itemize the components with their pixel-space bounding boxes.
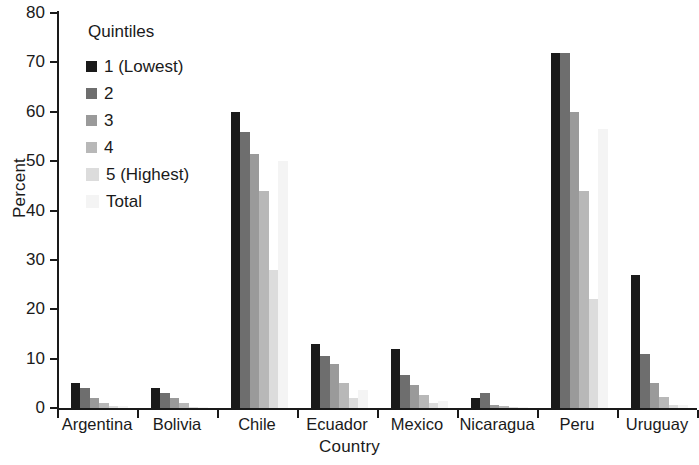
bar-group — [551, 13, 608, 408]
y-tick-label: 60 — [0, 103, 45, 120]
legend-swatch-icon — [86, 195, 99, 208]
legend-swatch-icon — [86, 115, 97, 126]
bar[interactable] — [429, 403, 439, 408]
legend-item-label: 1 (Lowest) — [104, 57, 183, 77]
bar[interactable] — [551, 53, 561, 409]
bar[interactable] — [400, 375, 410, 408]
y-tick-mark — [50, 160, 57, 162]
legend-item[interactable]: Total — [86, 188, 296, 215]
y-tick-mark — [50, 210, 57, 212]
bar-group — [391, 13, 448, 408]
bar[interactable] — [518, 407, 528, 408]
y-tick-label: 10 — [0, 350, 45, 367]
bar[interactable] — [480, 393, 490, 408]
y-tick-label: 0 — [0, 399, 45, 416]
bar[interactable] — [259, 191, 269, 408]
y-tick-mark — [50, 308, 57, 310]
y-tick-label: 20 — [0, 300, 45, 317]
y-tick-mark — [50, 61, 57, 63]
bar[interactable] — [349, 398, 359, 408]
legend-item-label: 3 — [104, 111, 113, 131]
y-tick-label: 70 — [0, 53, 45, 70]
bar[interactable] — [509, 407, 519, 408]
bar-group — [631, 13, 688, 408]
bar-chart: Percent Country 01020304050607080 Argent… — [0, 0, 699, 465]
bar[interactable] — [659, 397, 669, 408]
legend: Quintiles 1 (Lowest)2345 (Highest)Total — [86, 22, 296, 215]
legend-item-label: Total — [106, 192, 142, 212]
legend-swatch-icon — [86, 142, 97, 153]
bar[interactable] — [198, 407, 208, 408]
x-tick-label: Bolivia — [137, 415, 217, 433]
bar-group — [471, 13, 528, 408]
x-tick-label: Nicaragua — [457, 415, 537, 433]
bar[interactable] — [438, 401, 448, 408]
y-axis-title: Percent — [10, 133, 30, 243]
legend-item[interactable]: 4 — [86, 134, 296, 161]
bar[interactable] — [151, 388, 161, 408]
bar[interactable] — [631, 275, 641, 408]
bar[interactable] — [269, 270, 279, 408]
y-tick-label: 80 — [0, 4, 45, 21]
legend-item[interactable]: 5 (Highest) — [86, 161, 296, 188]
bar[interactable] — [391, 349, 401, 408]
bar[interactable] — [640, 354, 650, 408]
x-tick-label: Mexico — [377, 415, 457, 433]
bar[interactable] — [160, 393, 170, 408]
x-tick-label: Uruguay — [617, 415, 697, 433]
bar[interactable] — [99, 403, 109, 408]
y-tick-mark — [50, 111, 57, 113]
x-tick-label: Argentina — [57, 415, 137, 433]
bar-group — [311, 13, 368, 408]
x-tick-label: Peru — [537, 415, 617, 433]
bar[interactable] — [650, 383, 660, 408]
legend-item-label: 2 — [104, 84, 113, 104]
legend-swatch-icon — [86, 61, 97, 72]
x-tick-label: Ecuador — [297, 415, 377, 433]
y-tick-mark — [50, 12, 57, 14]
bar[interactable] — [471, 398, 481, 408]
legend-swatch-icon — [86, 168, 99, 181]
bar[interactable] — [71, 383, 81, 408]
legend-item-label: 5 (Highest) — [106, 165, 189, 185]
bar[interactable] — [669, 405, 679, 408]
y-tick-label: 30 — [0, 251, 45, 268]
bar[interactable] — [358, 390, 368, 408]
x-axis-title: Country — [0, 437, 699, 457]
bar[interactable] — [189, 407, 199, 408]
bar[interactable] — [80, 388, 90, 408]
bar[interactable] — [419, 395, 429, 408]
bar[interactable] — [570, 112, 580, 408]
x-tick-label: Chile — [217, 415, 297, 433]
bar[interactable] — [678, 405, 688, 408]
bar[interactable] — [598, 129, 608, 408]
bar[interactable] — [90, 398, 100, 408]
legend-items: 1 (Lowest)2345 (Highest)Total — [86, 53, 296, 215]
bar[interactable] — [490, 405, 500, 408]
bar[interactable] — [339, 383, 349, 408]
y-tick-mark — [50, 259, 57, 261]
bar[interactable] — [170, 398, 180, 408]
legend-item[interactable]: 1 (Lowest) — [86, 53, 296, 80]
bar[interactable] — [589, 299, 599, 408]
bar[interactable] — [579, 191, 589, 408]
bar[interactable] — [320, 356, 330, 408]
bar[interactable] — [118, 406, 128, 408]
legend-title: Quintiles — [88, 22, 296, 42]
bar[interactable] — [410, 385, 420, 408]
legend-item[interactable]: 2 — [86, 80, 296, 107]
y-tick-label: 40 — [0, 202, 45, 219]
y-tick-label: 50 — [0, 152, 45, 169]
bar[interactable] — [109, 406, 119, 408]
bar[interactable] — [499, 406, 509, 408]
legend-item[interactable]: 3 — [86, 107, 296, 134]
legend-swatch-icon — [86, 88, 97, 99]
bar[interactable] — [179, 403, 189, 408]
legend-item-label: 4 — [104, 138, 113, 158]
y-tick-mark — [50, 358, 57, 360]
bar[interactable] — [330, 364, 340, 408]
y-tick-mark — [50, 407, 57, 409]
bar[interactable] — [311, 344, 321, 408]
bar[interactable] — [560, 53, 570, 409]
